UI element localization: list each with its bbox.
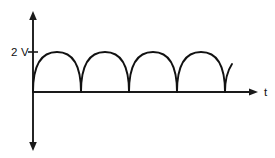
waveform-plot-svg: 2 V t [0,0,275,158]
arrow-right-icon [249,88,258,95]
x-axis-name-label: t [264,86,268,98]
waveform-figure: 2 V t [0,0,275,158]
y-axis-value-label: 2 V [11,46,29,58]
arrow-down-icon [29,142,37,151]
arrow-up-icon [29,11,37,20]
rectified-sine-waveform [33,52,232,92]
